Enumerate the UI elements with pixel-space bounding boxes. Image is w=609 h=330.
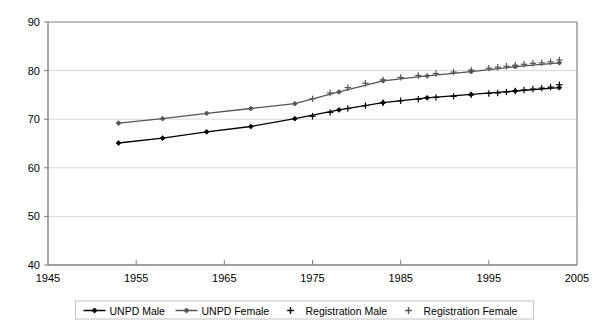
chart-legend: UNPD MaleUNPD FemaleRegistration MaleReg… <box>76 301 534 319</box>
legend-label: UNPD Male <box>110 305 166 317</box>
y-tick-label: 90 <box>28 16 40 28</box>
chart-canvas: 405060708090 194519551965197519851995200… <box>0 0 609 330</box>
y-axis-tick-labels: 405060708090 <box>28 16 40 271</box>
legend-label: Registration Male <box>306 305 388 317</box>
x-tick-label: 1965 <box>212 272 236 284</box>
y-tick-label: 40 <box>28 259 40 271</box>
y-tick-label: 60 <box>28 162 40 174</box>
x-tick-label: 1945 <box>36 272 60 284</box>
x-tick-label: 1975 <box>300 272 324 284</box>
y-tick-label: 50 <box>28 210 40 222</box>
y-tick-label: 70 <box>28 113 40 125</box>
y-tick-label: 80 <box>28 65 40 77</box>
legend-label: Registration Female <box>424 305 518 317</box>
line-chart: 405060708090 194519551965197519851995200… <box>0 0 609 330</box>
x-axis-tick-labels: 1945195519651975198519952005 <box>36 272 589 284</box>
x-tick-label: 1995 <box>477 272 501 284</box>
legend-label: UNPD Female <box>202 305 270 317</box>
x-tick-label: 2005 <box>565 272 589 284</box>
plot-background <box>48 22 577 265</box>
x-tick-label: 1985 <box>388 272 412 284</box>
x-tick-label: 1955 <box>124 272 148 284</box>
